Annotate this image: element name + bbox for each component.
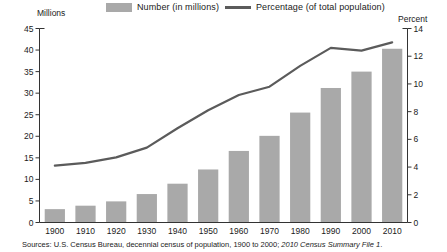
- left-tick-label-10: 10: [24, 174, 34, 184]
- category-label-1940: 1940: [168, 226, 187, 236]
- source-prefix: Sources: U.S. Census Bureau, decennial c…: [22, 240, 281, 249]
- bar-1900: [45, 209, 65, 222]
- bar-2000: [351, 72, 371, 223]
- category-label-1930: 1930: [137, 226, 156, 236]
- percentage-line: [55, 42, 392, 165]
- left-tick-label-5: 5: [29, 196, 34, 206]
- bar-1970: [259, 136, 279, 223]
- bar-1960: [229, 151, 249, 223]
- plot-area: 0510152025303540450246810121419001910192…: [0, 0, 447, 252]
- right-tick-label-0: 0: [414, 218, 419, 228]
- category-label-2010: 2010: [383, 226, 402, 236]
- bar-1980: [290, 113, 310, 223]
- source-italic: 2010 Census Summary File 1: [281, 240, 380, 249]
- category-label-1950: 1950: [199, 226, 218, 236]
- category-label-1900: 1900: [45, 226, 64, 236]
- category-label-1980: 1980: [291, 226, 310, 236]
- right-tick-label-4: 4: [414, 162, 419, 172]
- category-label-1920: 1920: [107, 226, 126, 236]
- right-tick-label-14: 14: [414, 24, 424, 34]
- right-tick-label-8: 8: [414, 107, 419, 117]
- right-tick-label-6: 6: [414, 134, 419, 144]
- bar-1940: [167, 184, 187, 223]
- left-tick-label-15: 15: [24, 153, 34, 163]
- left-tick-label-40: 40: [24, 45, 34, 55]
- left-tick-label-20: 20: [24, 131, 34, 141]
- chart-root: Number (in millions) Percentage (of tota…: [0, 0, 447, 252]
- right-tick-label-12: 12: [414, 51, 424, 61]
- category-label-2000: 2000: [352, 226, 371, 236]
- category-label-1910: 1910: [76, 226, 95, 236]
- bar-1990: [321, 88, 341, 223]
- left-tick-label-35: 35: [24, 67, 34, 77]
- left-tick-label-0: 0: [29, 218, 34, 228]
- left-tick-label-45: 45: [24, 24, 34, 34]
- bar-1920: [106, 201, 126, 222]
- left-tick-label-30: 30: [24, 88, 34, 98]
- source-note: Sources: U.S. Census Bureau, decennial c…: [22, 240, 382, 250]
- source-suffix: .: [380, 240, 382, 249]
- bar-1950: [198, 169, 218, 222]
- bar-2010: [382, 49, 402, 223]
- right-tick-label-10: 10: [414, 79, 424, 89]
- bar-1930: [137, 194, 157, 222]
- category-label-1960: 1960: [229, 226, 248, 236]
- category-label-1970: 1970: [260, 226, 279, 236]
- left-tick-label-25: 25: [24, 110, 34, 120]
- bar-1910: [75, 206, 95, 223]
- category-label-1990: 1990: [321, 226, 340, 236]
- chart-svg: 0510152025303540450246810121419001910192…: [0, 0, 447, 252]
- right-tick-label-2: 2: [414, 190, 419, 200]
